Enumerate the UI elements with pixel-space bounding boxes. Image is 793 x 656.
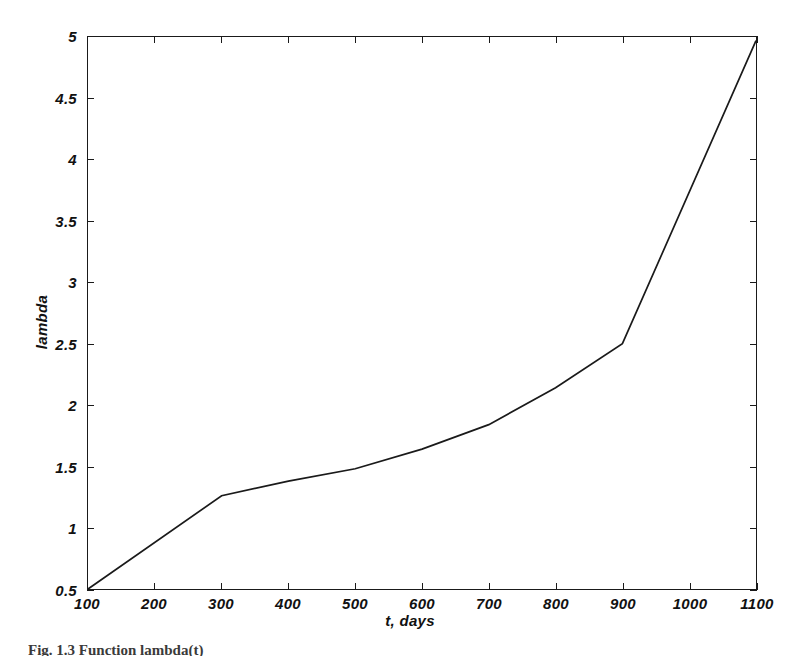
x-tick-label: 200 — [141, 595, 167, 612]
data-line-svg — [88, 37, 756, 589]
y-tick-mark-right — [750, 405, 757, 406]
x-tick-mark — [288, 583, 289, 590]
x-tick-label: 800 — [543, 595, 569, 612]
x-tick-mark-top — [489, 36, 490, 43]
x-tick-mark — [757, 583, 758, 590]
y-tick-mark-right — [750, 282, 757, 283]
y-tick-mark-right — [750, 36, 757, 37]
y-tick-mark — [87, 221, 94, 222]
y-tick-label: 3.5 — [0, 212, 77, 229]
x-tick-mark — [690, 583, 691, 590]
x-tick-mark-top — [556, 36, 557, 43]
lambda-data-line — [88, 41, 756, 589]
y-tick-mark — [87, 467, 94, 468]
y-tick-mark — [87, 36, 94, 37]
x-tick-label: 100 — [74, 595, 100, 612]
y-tick-label: 4 — [0, 151, 77, 168]
y-tick-mark-right — [750, 221, 757, 222]
x-tick-mark-top — [422, 36, 423, 43]
x-tick-mark — [489, 583, 490, 590]
x-tick-mark — [87, 583, 88, 590]
figure-caption-partial: Fig. 1.3 Function lambda(t) — [28, 645, 358, 656]
y-tick-mark-right — [750, 98, 757, 99]
x-tick-mark — [556, 583, 557, 590]
y-tick-label: 0.5 — [0, 582, 77, 599]
figure-canvas: 10020030040050060070080090010001100 0.51… — [0, 0, 793, 656]
y-tick-mark — [87, 405, 94, 406]
y-tick-label: 1.5 — [0, 458, 77, 475]
x-tick-mark-top — [623, 36, 624, 43]
x-tick-label: 500 — [342, 595, 368, 612]
y-tick-mark — [87, 159, 94, 160]
y-tick-label: 4.5 — [0, 89, 77, 106]
x-tick-mark-top — [154, 36, 155, 43]
y-tick-label: 3 — [0, 274, 77, 291]
x-tick-mark — [623, 583, 624, 590]
y-tick-label: 2 — [0, 397, 77, 414]
y-tick-mark — [87, 282, 94, 283]
x-tick-label: 1100 — [740, 595, 773, 612]
x-tick-mark — [422, 583, 423, 590]
y-tick-mark-right — [750, 590, 757, 591]
x-tick-mark-top — [355, 36, 356, 43]
x-tick-mark-top — [221, 36, 222, 43]
y-tick-mark-right — [750, 528, 757, 529]
x-tick-mark-top — [757, 36, 758, 43]
x-tick-label: 900 — [610, 595, 636, 612]
y-tick-mark-right — [750, 159, 757, 160]
x-axis-title: t, days — [385, 612, 435, 629]
x-tick-mark — [221, 583, 222, 590]
x-tick-mark-top — [87, 36, 88, 43]
y-tick-label: 1 — [0, 520, 77, 537]
x-tick-label: 1000 — [673, 595, 708, 612]
y-axis-title: lambda — [33, 295, 50, 349]
y-tick-mark-right — [750, 344, 757, 345]
y-tick-mark — [87, 590, 94, 591]
plot-area — [87, 36, 757, 590]
x-tick-label: 600 — [409, 595, 435, 612]
x-tick-mark-top — [690, 36, 691, 43]
y-tick-label: 5 — [0, 28, 77, 45]
y-tick-mark — [87, 98, 94, 99]
x-tick-mark — [154, 583, 155, 590]
y-tick-mark — [87, 528, 94, 529]
x-tick-mark-top — [288, 36, 289, 43]
y-tick-mark — [87, 344, 94, 345]
x-tick-mark — [355, 583, 356, 590]
x-tick-label: 300 — [208, 595, 234, 612]
x-tick-label: 400 — [275, 595, 301, 612]
x-tick-label: 700 — [476, 595, 502, 612]
y-tick-mark-right — [750, 467, 757, 468]
